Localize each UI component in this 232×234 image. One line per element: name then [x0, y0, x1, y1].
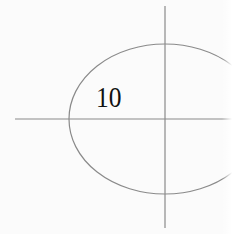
- right-edge-fade: [222, 0, 232, 234]
- diagram-canvas: [0, 0, 232, 234]
- quadrant-label: 10: [96, 82, 122, 112]
